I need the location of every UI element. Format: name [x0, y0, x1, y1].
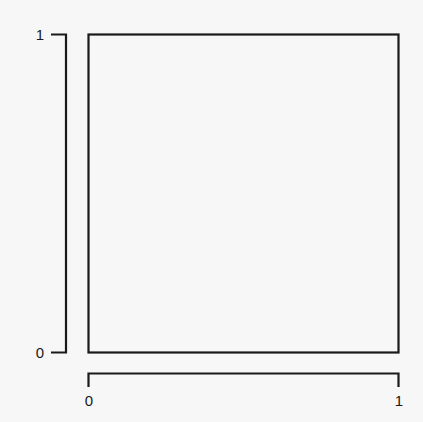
x-tick-label-min: 0	[85, 392, 93, 409]
plot-area-frame	[89, 35, 399, 353]
y-axis-line	[51, 35, 66, 353]
chart: 1 0 0 1	[0, 0, 423, 422]
y-tick-label-max: 1	[36, 26, 44, 43]
x-tick-label-max: 1	[395, 392, 403, 409]
x-axis-line	[89, 374, 399, 388]
y-tick-label-min: 0	[36, 344, 44, 361]
